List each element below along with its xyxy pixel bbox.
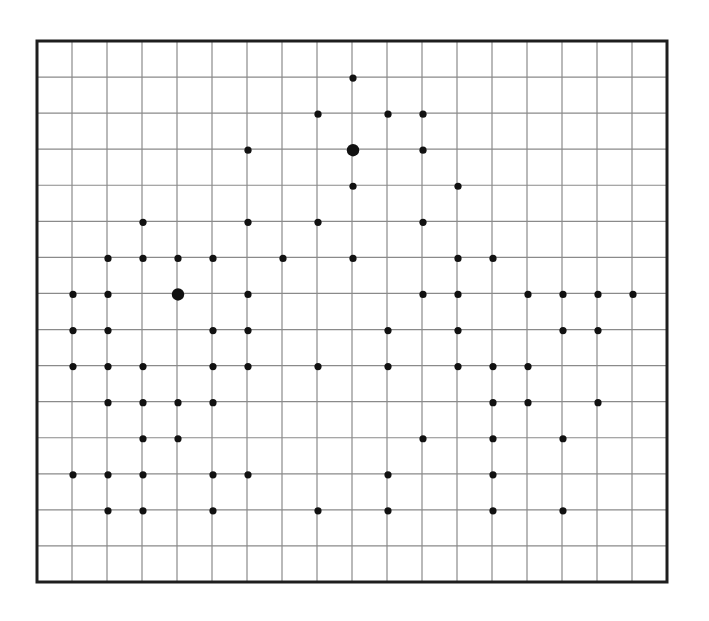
dot — [559, 507, 566, 514]
dot — [104, 471, 111, 478]
dot — [314, 507, 321, 514]
dot — [104, 255, 111, 262]
dot — [594, 399, 601, 406]
dot — [349, 183, 356, 190]
dot — [419, 435, 426, 442]
dot — [629, 291, 636, 298]
large-dot — [172, 288, 184, 300]
dot — [349, 74, 356, 81]
dot — [314, 219, 321, 226]
dot — [594, 327, 601, 334]
dot — [454, 363, 461, 370]
dot — [419, 219, 426, 226]
dot — [314, 363, 321, 370]
dot — [69, 363, 76, 370]
dot — [524, 399, 531, 406]
dot — [489, 363, 496, 370]
grid-dots — [69, 74, 636, 514]
dot — [174, 255, 181, 262]
dot — [244, 363, 251, 370]
dot — [104, 399, 111, 406]
dot — [419, 291, 426, 298]
grid-canvas — [37, 41, 667, 582]
dot — [384, 507, 391, 514]
dot — [104, 507, 111, 514]
dot — [384, 111, 391, 118]
dot-grid-board — [37, 41, 667, 582]
dot — [489, 471, 496, 478]
dot — [279, 255, 286, 262]
dot — [454, 327, 461, 334]
grid-lines — [37, 41, 667, 582]
dot — [69, 327, 76, 334]
dot — [384, 327, 391, 334]
dot — [139, 255, 146, 262]
dot — [524, 291, 531, 298]
dot — [69, 291, 76, 298]
dot — [209, 507, 216, 514]
dot — [244, 471, 251, 478]
dot — [139, 219, 146, 226]
dot — [489, 507, 496, 514]
dot — [244, 219, 251, 226]
dot — [594, 291, 601, 298]
dot — [559, 327, 566, 334]
large-dot — [347, 144, 359, 156]
dot — [104, 363, 111, 370]
dot — [244, 327, 251, 334]
dot — [139, 471, 146, 478]
dot — [209, 327, 216, 334]
dot — [139, 507, 146, 514]
dot — [489, 435, 496, 442]
dot — [209, 255, 216, 262]
dot — [174, 435, 181, 442]
dot — [104, 327, 111, 334]
dot — [384, 471, 391, 478]
dot — [419, 111, 426, 118]
dot — [69, 471, 76, 478]
dot — [489, 399, 496, 406]
dot — [419, 147, 426, 154]
dot — [244, 147, 251, 154]
dot — [139, 363, 146, 370]
dot — [489, 255, 496, 262]
dot — [454, 255, 461, 262]
dot — [314, 111, 321, 118]
dot — [349, 255, 356, 262]
dot — [454, 291, 461, 298]
dot — [174, 399, 181, 406]
dot — [524, 363, 531, 370]
dot — [104, 291, 111, 298]
dot — [209, 471, 216, 478]
dot — [139, 435, 146, 442]
dot — [139, 399, 146, 406]
dot — [384, 363, 391, 370]
dot — [559, 435, 566, 442]
dot — [454, 183, 461, 190]
dot — [209, 399, 216, 406]
dot — [244, 291, 251, 298]
dot — [559, 291, 566, 298]
dot — [209, 363, 216, 370]
